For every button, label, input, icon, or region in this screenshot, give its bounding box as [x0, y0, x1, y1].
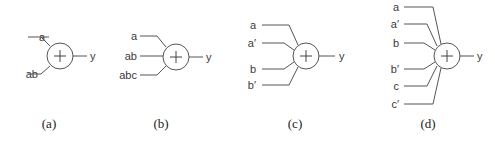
input-wire	[262, 67, 298, 85]
output-label: y	[90, 50, 96, 62]
output-label: y	[206, 51, 212, 63]
input-wire	[404, 43, 435, 50]
input-wire	[262, 43, 294, 50]
input-label: c	[394, 80, 400, 92]
input-label: a	[250, 19, 257, 31]
output-label: y	[339, 50, 345, 62]
panel-caption: (d)	[420, 116, 435, 131]
input-label: b′	[391, 63, 399, 75]
input-label: a	[131, 30, 138, 42]
sum-gate-diagrams: a ab y (a) a ab abc y (b) a a′ b b′	[0, 0, 495, 141]
panel-caption: (c)	[288, 116, 302, 131]
input-label: b	[393, 37, 399, 49]
input-label: a′	[391, 18, 399, 30]
panel-b: a ab abc y (b)	[119, 30, 212, 131]
panel-caption: (a)	[42, 116, 56, 131]
output-label: y	[477, 50, 483, 62]
input-label: b′	[248, 79, 256, 91]
input-label: ab	[125, 50, 137, 62]
input-wire	[404, 7, 441, 44]
input-wire	[262, 25, 298, 45]
input-label: b	[250, 63, 256, 75]
panel-c: a a′ b b′ y (c)	[248, 19, 345, 131]
panel-caption: (b)	[153, 116, 168, 131]
input-wire	[262, 62, 294, 69]
input-label: a′	[248, 37, 256, 49]
input-wire	[140, 66, 166, 75]
input-wire	[404, 62, 435, 69]
panel-d: a a′ b b′ c c′ y (d)	[391, 1, 483, 131]
input-label: a	[393, 1, 400, 13]
input-wire	[140, 36, 166, 47]
panel-a: a ab y (a)	[26, 31, 96, 131]
input-label: abc	[119, 69, 137, 81]
input-label: c′	[391, 98, 399, 110]
